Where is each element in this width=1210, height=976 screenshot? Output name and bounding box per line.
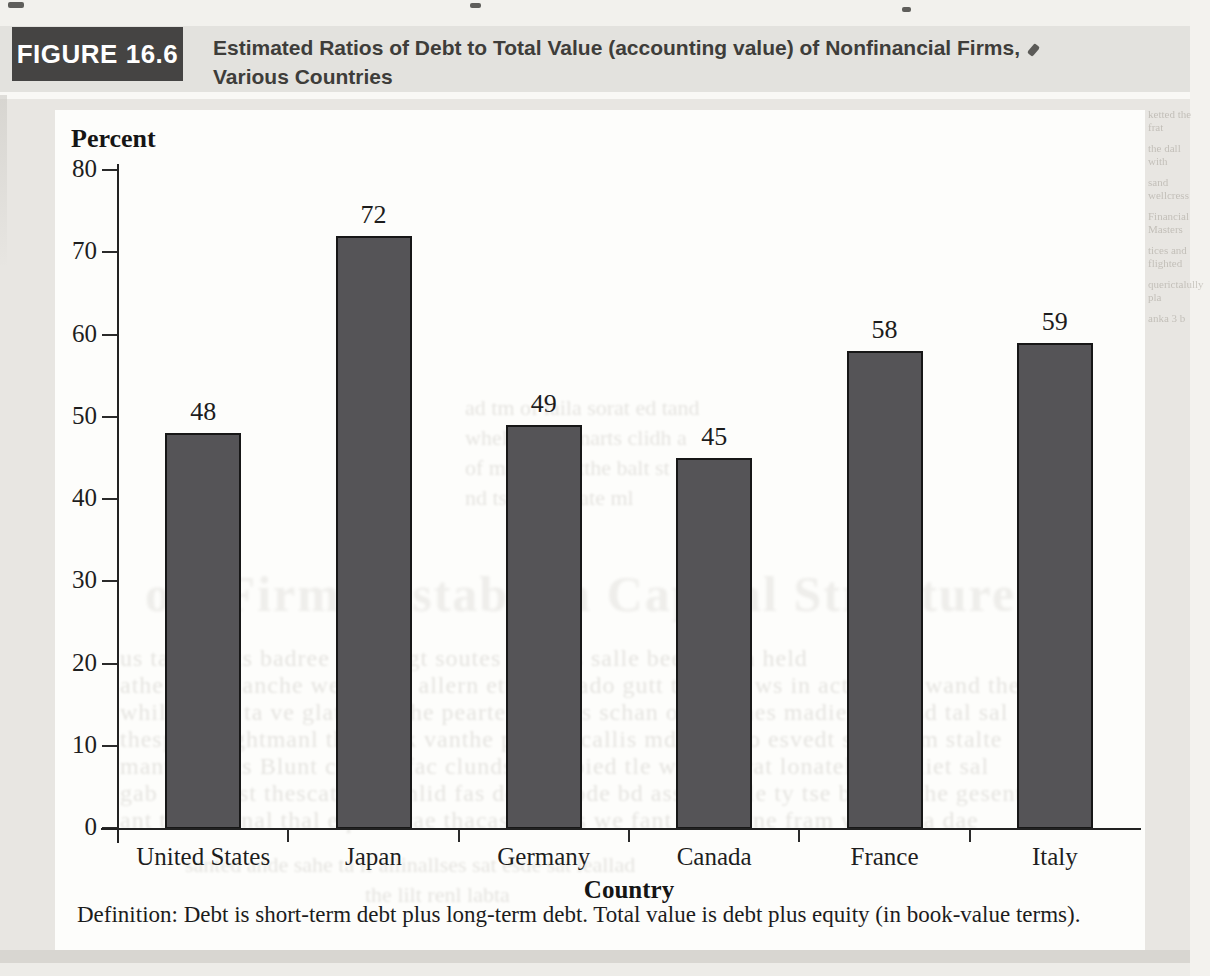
- bleed-through-text: anka 3 b: [1148, 312, 1192, 325]
- bleed-through-text: ketted the frat: [1148, 108, 1192, 134]
- bleed-through-text: the dall with: [1148, 142, 1192, 168]
- bar-germany: [506, 425, 582, 829]
- y-tick-mark: [102, 416, 117, 418]
- figure-title-line1: Estimated Ratios of Debt to Total Value …: [213, 33, 1093, 62]
- bar-japan: [336, 236, 412, 829]
- x-axis-title: Country: [529, 876, 729, 904]
- bleed-through-text: querictalully pla: [1148, 278, 1192, 304]
- bar-france: [847, 351, 923, 829]
- page-bottom-margin: [0, 963, 1190, 976]
- bleed-through-text: sand wellcress: [1148, 176, 1192, 202]
- x-category-label: Japan: [290, 843, 458, 871]
- page-right-margin: [1190, 0, 1210, 976]
- bar-value-label: 45: [669, 422, 759, 452]
- scan-speck: [902, 7, 911, 12]
- y-tick-mark: [102, 498, 117, 500]
- y-tick-label: 80: [57, 155, 97, 183]
- y-tick-label: 40: [57, 484, 97, 512]
- bleed-through-text: tices and flighted: [1148, 244, 1192, 270]
- y-tick-label: 30: [57, 566, 97, 594]
- y-tick-label: 50: [57, 402, 97, 430]
- bar-value-label: 48: [158, 397, 248, 427]
- x-category-label: France: [801, 843, 969, 871]
- bar-value-label: 59: [1010, 307, 1100, 337]
- page-top-margin: [0, 0, 1210, 26]
- x-category-label: United States: [119, 843, 287, 871]
- x-category-label: Italy: [971, 843, 1139, 871]
- page-bottom-band: [0, 950, 1190, 963]
- y-tick-mark: [102, 745, 117, 747]
- figure-title: Estimated Ratios of Debt to Total Value …: [213, 33, 1093, 91]
- y-tick-label: 20: [57, 649, 97, 677]
- y-tick-label: 0: [57, 813, 97, 841]
- x-category-label: Germany: [460, 843, 628, 871]
- y-axis-line: [117, 164, 119, 843]
- bar-italy: [1017, 343, 1093, 829]
- y-tick-mark: [102, 251, 117, 253]
- figure-footnote: Definition: Debt is short-term debt plus…: [77, 902, 1080, 928]
- bar-value-label: 58: [840, 315, 930, 345]
- y-tick-mark: [102, 334, 117, 336]
- scanned-textbook-figure-page: FIGURE 16.6 Estimated Ratios of Debt to …: [0, 0, 1210, 976]
- figure-number-box: FIGURE 16.6: [12, 27, 183, 81]
- figure-title-line2: Various Countries: [213, 62, 1093, 91]
- y-tick-mark: [102, 580, 117, 582]
- bar-value-label: 49: [499, 389, 589, 419]
- header-divider-gap: [0, 92, 1190, 99]
- bleed-through-text: Financial Masters: [1148, 210, 1192, 236]
- bar-value-label: 72: [329, 200, 419, 230]
- x-category-label: Canada: [630, 843, 798, 871]
- bar-united-states: [165, 433, 241, 829]
- y-tick-mark: [102, 663, 117, 665]
- chart-box: Percent Country Definition: Debt is shor…: [55, 110, 1145, 950]
- y-axis-title: Percent: [71, 124, 156, 154]
- bar-canada: [676, 458, 752, 829]
- x-axis-line: [101, 828, 1141, 830]
- scan-speck: [470, 3, 481, 8]
- y-tick-label: 70: [57, 237, 97, 265]
- scan-speck: [8, 2, 24, 8]
- scan-edge-shadow: [0, 95, 7, 265]
- y-tick-label: 10: [57, 731, 97, 759]
- y-tick-mark: [102, 169, 117, 171]
- figure-number-label: FIGURE 16.6: [17, 39, 179, 70]
- y-tick-label: 60: [57, 320, 97, 348]
